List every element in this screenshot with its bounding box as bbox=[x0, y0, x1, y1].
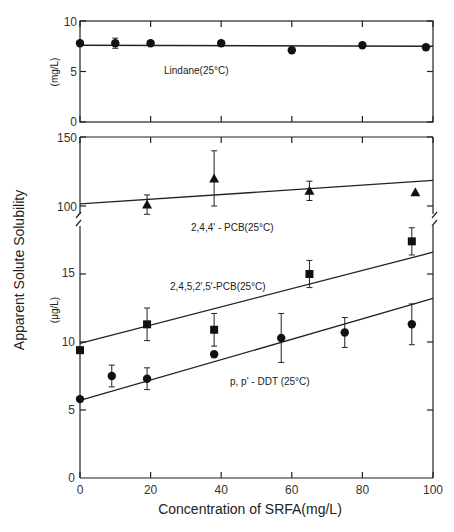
pcb24525-label: 2,4,5,2',5'-PCB(25°C) bbox=[170, 281, 266, 292]
data-point-square-marker bbox=[305, 270, 313, 278]
y-tick-label: 5 bbox=[70, 65, 77, 79]
data-point-circle-marker bbox=[422, 43, 430, 51]
y-axis-title: Apparent Solute Solubility bbox=[11, 190, 27, 350]
y-tick-label: 5 bbox=[68, 403, 75, 417]
data-point-square-marker bbox=[76, 346, 84, 354]
data-point-square-marker bbox=[143, 320, 151, 328]
x-tick-label: 80 bbox=[356, 483, 370, 497]
data-point-circle-marker bbox=[108, 372, 116, 380]
data-point-circle-marker bbox=[358, 41, 366, 49]
data-point-triangle-marker bbox=[209, 173, 219, 182]
data-point-circle-marker bbox=[217, 39, 225, 47]
data-point-circle-marker bbox=[277, 334, 285, 342]
y-tick-label: 0 bbox=[68, 471, 75, 485]
data-point-square-marker bbox=[408, 237, 416, 245]
y-tick-label: 0 bbox=[70, 115, 77, 129]
ddt-label: p, p' - DDT (25°C) bbox=[230, 376, 310, 387]
x-tick-label: 60 bbox=[285, 483, 299, 497]
x-tick-label: 100 bbox=[423, 483, 443, 497]
x-axis-title: Concentration of SRFA(mg/L) bbox=[158, 501, 342, 517]
chart-canvas: Apparent Solute Solubility (mg/L) (μg/L)… bbox=[0, 0, 454, 532]
x-tick-label: 40 bbox=[215, 483, 229, 497]
data-point-circle-marker bbox=[143, 375, 151, 383]
x-tick-label: 0 bbox=[77, 483, 84, 497]
data-point-circle-marker bbox=[76, 395, 84, 403]
plot-area bbox=[76, 21, 437, 478]
data-point-triangle-marker bbox=[304, 186, 314, 195]
data-point-circle-marker bbox=[76, 39, 84, 47]
fit-line bbox=[80, 180, 433, 203]
lindane-label: Lindane(25°C) bbox=[164, 65, 229, 76]
data-point-square-marker bbox=[210, 326, 218, 334]
y-tick-label: 10 bbox=[64, 15, 78, 29]
axis-break-left bbox=[76, 212, 81, 226]
y-tick-label: 150 bbox=[57, 131, 77, 145]
y-tick-label: 15 bbox=[62, 266, 76, 280]
fit-line bbox=[80, 252, 433, 343]
data-point-circle-marker bbox=[288, 46, 296, 54]
x-tick-label: 20 bbox=[144, 483, 158, 497]
y-tick-label: 10 bbox=[62, 335, 76, 349]
data-point-circle-marker bbox=[111, 39, 119, 47]
data-point-circle-marker bbox=[210, 350, 218, 358]
top-panel-frame bbox=[80, 21, 433, 122]
pcb244-label: 2,4,4' - PCB(25°C) bbox=[191, 222, 274, 233]
bottom-unit-label: (μg/L) bbox=[49, 297, 60, 323]
data-point-triangle-marker bbox=[410, 187, 420, 196]
fit-line bbox=[80, 45, 433, 46]
data-point-circle-marker bbox=[341, 328, 349, 336]
top-unit-label: (mg/L) bbox=[49, 58, 60, 87]
data-point-triangle-marker bbox=[142, 200, 152, 209]
axis-break-right bbox=[432, 212, 437, 226]
data-point-circle-marker bbox=[408, 320, 416, 328]
y-tick-label: 100 bbox=[57, 200, 77, 214]
data-point-circle-marker bbox=[146, 39, 154, 47]
